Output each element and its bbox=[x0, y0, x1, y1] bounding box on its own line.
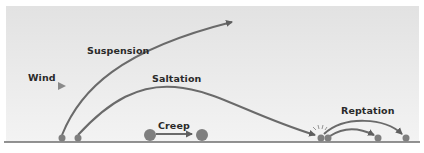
suspension-label: Suspension bbox=[87, 45, 149, 56]
suspension-particle bbox=[59, 135, 66, 142]
aeolian-transport-diagram: Wind Suspension Saltation Creep Reptatio… bbox=[0, 0, 424, 153]
saltation-particle bbox=[75, 135, 82, 142]
reptation-particle-landing-far bbox=[403, 135, 410, 142]
wind-label: Wind bbox=[28, 72, 56, 83]
reptation-label: Reptation bbox=[341, 105, 395, 116]
creep-particle-start bbox=[144, 129, 156, 141]
reptation-particle-origin bbox=[325, 135, 332, 142]
creep-particle-end bbox=[196, 129, 208, 141]
impact-particle bbox=[318, 135, 325, 142]
diagram-canvas bbox=[0, 0, 424, 153]
saltation-label: Saltation bbox=[152, 73, 201, 84]
reptation-particle-landing-near bbox=[375, 135, 382, 142]
creep-label: Creep bbox=[158, 120, 190, 131]
